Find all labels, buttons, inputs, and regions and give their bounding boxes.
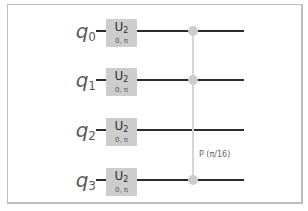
gate-params: 0, π bbox=[106, 186, 137, 195]
gate-params: 0, π bbox=[106, 86, 137, 95]
qubit-wire-q3 bbox=[96, 179, 106, 181]
u2-gate-q0: U2 0, π bbox=[106, 19, 137, 47]
control-dot-q1 bbox=[188, 75, 198, 85]
qubit-label-q2: q2 bbox=[56, 120, 96, 146]
control-dot-q3 bbox=[188, 175, 198, 185]
u2-gate-q1: U2 0, π bbox=[106, 68, 137, 96]
qubit-wire-q0 bbox=[96, 30, 106, 32]
gate-params: 0, π bbox=[106, 136, 137, 145]
u2-gate-q2: U2 0, π bbox=[106, 118, 137, 146]
qubit-wire-q2-right bbox=[137, 129, 244, 131]
qubit-label-q1: q1 bbox=[56, 70, 96, 96]
qubit-wire-q1 bbox=[96, 79, 106, 81]
phase-gate-label: P (π/16) bbox=[199, 150, 230, 159]
qubit-label-q3: q3 bbox=[56, 170, 96, 196]
circuit-frame bbox=[7, 4, 303, 204]
u2-gate-q3: U2 0, π bbox=[106, 168, 137, 196]
qubit-label-q0: q0 bbox=[56, 21, 96, 47]
control-dot-q0 bbox=[188, 26, 198, 36]
gate-params: 0, π bbox=[106, 37, 137, 46]
qubit-wire-q2 bbox=[96, 129, 106, 131]
controlled-phase-connector bbox=[192, 31, 194, 180]
